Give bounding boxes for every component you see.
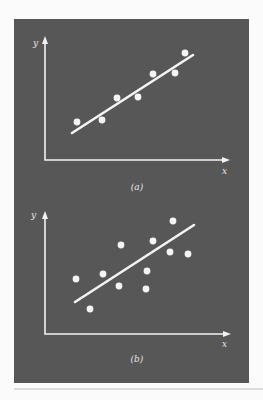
data-point [99,117,106,124]
data-point [150,238,157,245]
figure: yx(a)yx(b) [0,0,263,400]
data-point [170,218,177,225]
y-axis-label: y [32,38,39,48]
x-axis-label: x [222,166,227,176]
data-point [185,251,192,258]
data-point [114,95,121,102]
panel-caption: (b) [131,354,144,364]
data-point [100,271,107,278]
y-axis-label: y [30,210,37,220]
data-point [74,119,81,126]
data-point [143,286,150,293]
x-axis-label: x [222,339,227,349]
data-point [87,306,94,313]
data-point [150,71,157,78]
data-point [73,276,80,283]
data-point [135,94,142,101]
data-point [118,242,125,249]
data-point [182,50,189,57]
panel-caption: (a) [131,182,144,192]
figure-panel-background [14,19,249,383]
data-point [144,268,151,275]
data-point [116,283,123,290]
data-point [172,70,179,77]
data-point [167,249,174,256]
